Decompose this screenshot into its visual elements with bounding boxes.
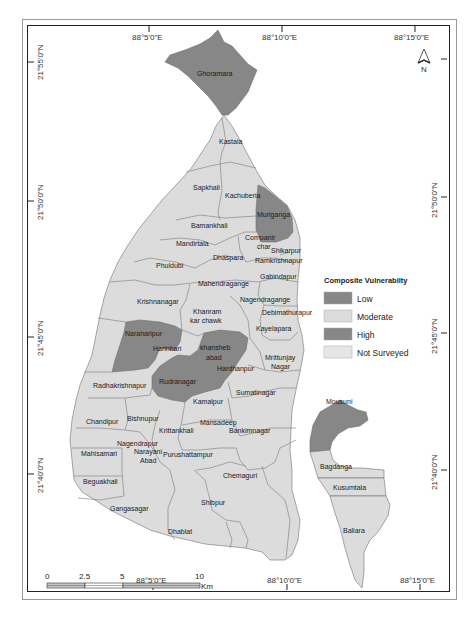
right-latitude-label-2: 21°45'0"N: [430, 318, 439, 354]
label-harinbari: Harinbari: [153, 345, 182, 352]
label-companir-char-2: char: [257, 243, 271, 250]
top-longitude-label-2: 88°10'0"E: [262, 33, 297, 42]
label-gangasagar: Gangasagar: [110, 505, 149, 513]
label-mrittunjay-2: Nagar: [271, 363, 291, 371]
legend-swatch-moderate: [324, 310, 352, 322]
label-chandipur: Chandipur: [86, 418, 119, 426]
scale-tick-5: 5: [120, 572, 125, 581]
label-krishnanagar: Krishnanagar: [137, 298, 179, 306]
right-latitude-label-3: 21°40'0"N: [430, 454, 439, 490]
label-beguakhali: Beguakhali: [83, 478, 118, 486]
label-kamalpur: Kamalpur: [193, 398, 224, 406]
scale-bar: 0 2.5 5 10 Km: [45, 572, 213, 591]
top-longitude-label-1: 88°5'0"E: [132, 33, 163, 42]
legend-label-moderate: Moderate: [357, 312, 393, 322]
label-krittankhali: Krittankhali: [159, 427, 194, 434]
label-mahisamari: Mahisamari: [81, 450, 118, 457]
label-shibpur: Shibpur: [201, 499, 226, 507]
left-latitude-label-3: 21°45'0"N: [36, 320, 45, 356]
label-shikarpur: Shikarpur: [271, 247, 302, 255]
label-baliara: Baliara: [343, 527, 365, 534]
label-hardhanpur: Hardhanpur: [217, 365, 255, 373]
map-canvas: 88°5'0"E 88°10'0"E 88°15'0"E 88°5'0"E 88…: [0, 0, 471, 628]
label-bagdanga: Bagdanga: [320, 463, 352, 471]
label-kayelapara: Kayelapara: [256, 325, 292, 333]
label-mrittunjay-1: Mrittunjay: [265, 354, 296, 362]
label-phuldubi: Phuldubi: [156, 262, 184, 269]
label-khansheb-1: khansheb: [200, 344, 230, 351]
right-latitude-label-1: 21°50'0"N: [430, 182, 439, 218]
label-khanram-1: Khanram: [193, 308, 222, 315]
label-mahendragange: Mahendragange: [198, 280, 249, 288]
legend-title: Composite Vulnerabilty: [324, 276, 408, 285]
label-narayani-2: Abad: [140, 457, 156, 464]
label-gabindapur: Gabindapur: [260, 273, 297, 281]
scale-tick-10: 10: [195, 572, 204, 581]
label-khanram-2: kar chawk: [190, 317, 222, 324]
region-baliara[interactable]: [330, 496, 390, 588]
legend-swatch-high: [324, 328, 352, 340]
label-kastala: Kastala: [219, 138, 242, 145]
label-debimathurapur: Debimathurapur: [262, 309, 313, 317]
label-bamankhali: Bamankhali: [191, 222, 228, 229]
label-ramkrishnapur: Ramkrishnapur: [255, 257, 303, 265]
label-bankimnagar: Bankimnagar: [229, 427, 271, 435]
label-mousuni: Mousuni: [326, 398, 353, 405]
legend-swatch-low: [324, 292, 352, 304]
label-radhakrishnapur: Radhakrishnapur: [93, 382, 147, 390]
label-nagendragange: Nagendragange: [240, 296, 290, 304]
bottom-longitude-label-3: 88°15'0"E: [400, 576, 435, 585]
label-naraharipur: Naraharipur: [125, 330, 163, 338]
left-latitude-label-1: 21°55'0"N: [36, 44, 45, 80]
legend-swatch-not-surveyed: [324, 346, 352, 358]
top-longitude-label-3: 88°15'0"E: [394, 33, 429, 42]
label-purushattampur: Purushattampur: [163, 451, 213, 459]
label-mandirtala: Mandirtala: [176, 240, 209, 247]
label-mansadeep: Mansadeep: [200, 419, 237, 427]
label-narayani-1: Narayani: [134, 448, 162, 456]
scale-unit: Km: [201, 582, 213, 591]
legend: Composite Vulnerabilty Low Moderate High…: [324, 276, 409, 358]
label-kusumtala: Kusumtala: [333, 484, 366, 491]
label-rudranagar: Rudranagar: [159, 378, 197, 386]
label-nagendrapur: Nagendrapur: [117, 440, 159, 448]
legend-label-high: High: [357, 330, 375, 340]
label-dhaspara: Dhaspara: [213, 254, 243, 262]
label-muriganga: Muriganga: [257, 211, 290, 219]
bottom-longitude-label-2: 88°10'0"E: [267, 576, 302, 585]
label-dhablat: Dhablat: [168, 528, 192, 535]
north-arrow-icon: N: [418, 49, 430, 74]
label-ghoramara: Ghoramara: [197, 70, 233, 77]
label-khansheb-2: abad: [206, 354, 222, 361]
scale-tick-2-5: 2.5: [79, 572, 91, 581]
label-sumatinagar: Sumatinagar: [236, 389, 276, 397]
scale-tick-0: 0: [45, 572, 50, 581]
label-sapkhali: Sapkhali: [193, 184, 220, 192]
label-companir-char-1: Companir: [245, 234, 276, 242]
left-latitude-label-4: 21°40'0"N: [36, 457, 45, 493]
region-mousuni[interactable]: [310, 400, 368, 452]
label-kachuberia: Kachuberia: [225, 192, 261, 199]
region-sagar-island: [70, 115, 304, 560]
label-chemaguri: Chemaguri: [223, 472, 258, 480]
left-latitude-label-2: 21°50'0"N: [36, 184, 45, 220]
legend-label-not-surveyed: Not Surveyed: [357, 348, 409, 358]
north-label: N: [421, 65, 427, 74]
label-bishnupur: Bishnupur: [127, 415, 159, 423]
legend-label-low: Low: [357, 294, 373, 304]
